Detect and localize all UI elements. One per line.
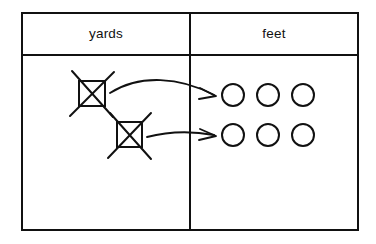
foot-circle (222, 124, 244, 146)
foot-circle (257, 124, 279, 146)
arrow-shaft (147, 132, 214, 137)
arrow-head (199, 88, 216, 99)
feet-row-2 (222, 124, 314, 146)
arrow-shaft (110, 80, 214, 95)
yards-to-feet-worksheet: yards feet (0, 0, 376, 244)
column-header-feet: feet (190, 13, 358, 55)
arrow-square-1-to-row-1 (110, 80, 216, 99)
column-header-yards: yards (22, 13, 190, 55)
foot-circle (292, 124, 314, 146)
feet-row-1 (222, 84, 314, 106)
foot-circle (257, 84, 279, 106)
yard-square-1-group (70, 71, 114, 117)
foot-circle (292, 84, 314, 106)
arrow-square-2-to-row-2 (147, 129, 216, 140)
foot-circle (222, 84, 244, 106)
yard-square-2-group (108, 113, 151, 159)
